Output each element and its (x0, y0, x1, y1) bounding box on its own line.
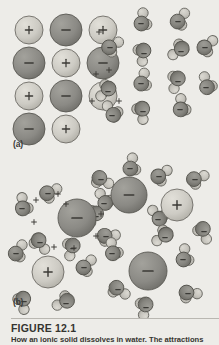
cation (161, 189, 193, 221)
dissolution-diagram (0, 0, 219, 318)
anion (50, 14, 82, 46)
cation (15, 16, 43, 44)
cation (89, 16, 117, 44)
cation (15, 82, 43, 110)
anion (50, 80, 82, 112)
figure-number: FIGURE 12.1 (11, 322, 76, 334)
anion (58, 199, 96, 237)
panel-label-b: (b) (13, 297, 23, 307)
figure-illustration: (a) (b) (0, 0, 219, 318)
anion (129, 252, 167, 290)
figure-page: (a) (b) FIGURE 12.1 How an ionic solid d… (0, 0, 219, 345)
panel-label-a: (a) (13, 139, 23, 149)
cation (52, 49, 80, 77)
cation (32, 256, 64, 288)
caption-divider (11, 318, 219, 319)
anion (13, 47, 45, 79)
anion (111, 177, 147, 213)
figure-caption-block: FIGURE 12.1 How an ionic solid dissolves… (0, 318, 219, 345)
cation (52, 115, 80, 143)
figure-caption-text: How an ionic solid dissolves in water. T… (11, 335, 217, 344)
